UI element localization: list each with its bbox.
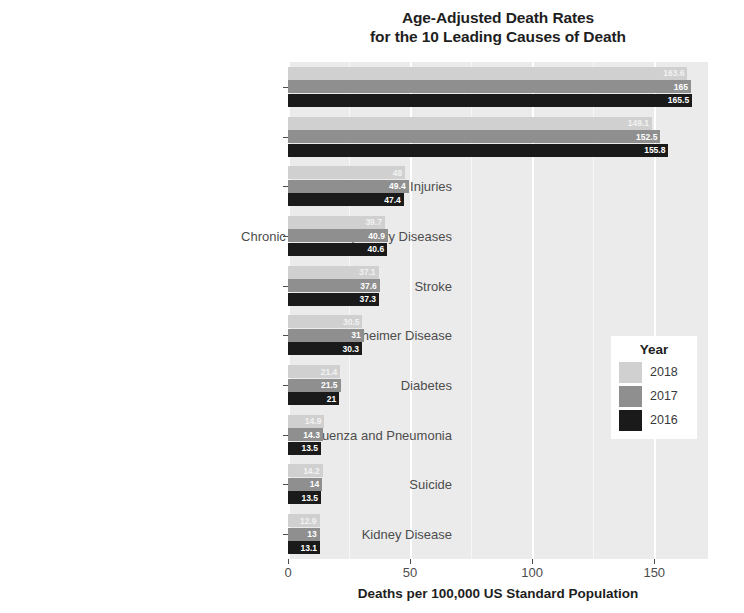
x-axis-tick-label: 100 bbox=[521, 566, 543, 579]
chart-title-line-2: for the 10 Leading Causes of Death bbox=[288, 27, 708, 46]
bar-value-label: 155.8 bbox=[644, 146, 665, 155]
x-axis-tick-label: 150 bbox=[643, 566, 665, 579]
legend-swatch-icon bbox=[619, 410, 642, 431]
bar-value-label: 149.1 bbox=[628, 119, 649, 128]
bar-value-label: 21.5 bbox=[321, 381, 338, 390]
bar-2017: 40.9 bbox=[288, 229, 388, 242]
bar-value-label: 152.5 bbox=[636, 132, 657, 141]
bar-value-label: 13 bbox=[307, 530, 316, 539]
bar-2017: 37.6 bbox=[288, 279, 380, 292]
bar-value-label: 47.4 bbox=[384, 196, 401, 205]
bar-2017: 152.5 bbox=[288, 130, 660, 143]
bar-2016: 155.8 bbox=[288, 144, 668, 157]
x-axis-tick bbox=[288, 559, 289, 564]
bar-2018: 48 bbox=[288, 166, 405, 179]
bar-2016: 13.5 bbox=[288, 442, 321, 455]
bar-value-label: 49.4 bbox=[389, 182, 406, 191]
bar-2018: 37.1 bbox=[288, 266, 379, 279]
bar-value-label: 39.7 bbox=[365, 218, 382, 227]
bar-2016: 47.4 bbox=[288, 193, 404, 206]
bar-value-label: 21.4 bbox=[321, 367, 338, 376]
bar-2018: 39.7 bbox=[288, 216, 385, 229]
bar-2016: 13.5 bbox=[288, 491, 321, 504]
bar-value-label: 14.2 bbox=[303, 467, 320, 476]
bar-value-label: 13.1 bbox=[300, 543, 317, 552]
bar-value-label: 31 bbox=[351, 331, 360, 340]
y-axis-category-label: Kidney Disease bbox=[362, 528, 452, 541]
bar-2017: 14 bbox=[288, 478, 322, 491]
bar-2017: 21.5 bbox=[288, 379, 341, 392]
bar-value-label: 40.6 bbox=[368, 245, 385, 254]
bar-2018: 149.1 bbox=[288, 117, 652, 130]
legend-item-2017[interactable]: 2017 bbox=[619, 386, 689, 407]
bar-2016: 40.6 bbox=[288, 243, 387, 256]
bar-2018: 21.4 bbox=[288, 365, 340, 378]
legend-swatch-icon bbox=[619, 386, 642, 407]
bar-value-label: 21 bbox=[327, 394, 336, 403]
legend-item-2016[interactable]: 2016 bbox=[619, 410, 689, 431]
y-axis-category-label: Suicide bbox=[409, 478, 452, 491]
bar-2018: 14.2 bbox=[288, 464, 323, 477]
bar-value-label: 14.9 bbox=[305, 417, 322, 426]
bar-2018: 14.9 bbox=[288, 415, 324, 428]
legend-item-2018[interactable]: 2018 bbox=[619, 362, 689, 383]
bar-2017: 31 bbox=[288, 329, 364, 342]
bar-value-label: 30.3 bbox=[342, 345, 359, 354]
x-axis-tick bbox=[410, 559, 411, 564]
bar-value-label: 13.5 bbox=[301, 494, 318, 503]
y-axis-category-label: Diabetes bbox=[401, 379, 452, 392]
bar-value-label: 14.3 bbox=[303, 431, 320, 440]
bar-2017: 49.4 bbox=[288, 180, 409, 193]
bar-value-label: 165 bbox=[674, 83, 688, 92]
legend-item-label: 2017 bbox=[650, 390, 678, 403]
x-axis-tick bbox=[532, 559, 533, 564]
x-axis-tick bbox=[654, 559, 655, 564]
bar-value-label: 163.6 bbox=[663, 69, 684, 78]
bar-2017: 14.3 bbox=[288, 428, 323, 441]
bar-2016: 165.5 bbox=[288, 94, 692, 107]
bar-value-label: 37.1 bbox=[359, 268, 376, 277]
bar-2016: 30.3 bbox=[288, 342, 362, 355]
y-axis-category-label: Stroke bbox=[414, 279, 452, 292]
bar-2016: 13.1 bbox=[288, 541, 320, 554]
bar-value-label: 37.6 bbox=[360, 281, 377, 290]
x-axis-tick-label: 50 bbox=[403, 566, 417, 579]
bar-2018: 12.9 bbox=[288, 514, 320, 527]
x-axis-tick-label: 0 bbox=[284, 566, 291, 579]
bar-2017: 13 bbox=[288, 528, 320, 541]
legend-title: Year bbox=[619, 342, 689, 357]
bar-2016: 37.3 bbox=[288, 293, 379, 306]
bar-2018: 30.5 bbox=[288, 315, 362, 328]
bar-2016: 21 bbox=[288, 392, 339, 405]
bar-value-label: 40.9 bbox=[368, 232, 385, 241]
bar-value-label: 12.9 bbox=[300, 516, 317, 525]
legend-item-label: 2018 bbox=[650, 366, 678, 379]
legend-item-label: 2016 bbox=[650, 414, 678, 427]
chart-title-line-1: Age-Adjusted Death Rates bbox=[288, 8, 708, 27]
bar-value-label: 48 bbox=[393, 169, 402, 178]
chart-root: Age-Adjusted Death Rates for the 10 Lead… bbox=[0, 0, 744, 613]
bar-value-label: 13.5 bbox=[301, 444, 318, 453]
y-axis-category-label: Influenza and Pneumonia bbox=[305, 428, 452, 441]
legend-swatch-icon bbox=[619, 362, 642, 383]
legend-rows: 201820172016 bbox=[619, 362, 689, 431]
bar-value-label: 14 bbox=[310, 480, 319, 489]
bar-value-label: 37.3 bbox=[360, 295, 377, 304]
legend: Year 201820172016 bbox=[611, 336, 697, 439]
chart-title: Age-Adjusted Death Rates for the 10 Lead… bbox=[288, 8, 708, 46]
x-axis-title: Deaths per 100,000 US Standard Populatio… bbox=[288, 586, 708, 601]
bar-value-label: 30.5 bbox=[343, 318, 360, 327]
bar-2018: 163.6 bbox=[288, 67, 687, 80]
bar-value-label: 165.5 bbox=[668, 96, 689, 105]
bar-2017: 165 bbox=[288, 80, 691, 93]
